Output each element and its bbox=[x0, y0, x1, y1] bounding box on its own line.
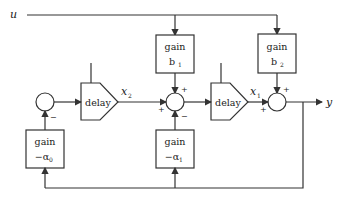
delay-block-2: delay bbox=[211, 63, 248, 120]
input-label: u bbox=[10, 8, 17, 21]
sign-mid-bottom: − bbox=[181, 112, 188, 121]
sign-right-left: + bbox=[260, 105, 267, 114]
svg-text:gain: gain bbox=[165, 136, 186, 147]
svg-text:−α: −α bbox=[35, 151, 50, 162]
svg-text:2: 2 bbox=[280, 61, 284, 68]
sign-mid-left: + bbox=[158, 105, 165, 114]
svg-text:−α: −α bbox=[165, 151, 180, 162]
svg-text:1: 1 bbox=[178, 61, 182, 68]
svg-text:gain: gain bbox=[35, 136, 56, 147]
svg-text:1: 1 bbox=[179, 156, 183, 163]
svg-text:delay: delay bbox=[215, 97, 241, 108]
gain-b2-block: gain b 2 bbox=[258, 34, 296, 73]
block-diagram: u gain b 1 gain b 2 delay delay y x bbox=[0, 0, 346, 200]
gain-b1-block: gain b 1 bbox=[156, 35, 194, 73]
state-x2-label: x 2 bbox=[121, 85, 132, 99]
output-label: y bbox=[325, 96, 333, 109]
sign-left-bottom: − bbox=[50, 113, 57, 122]
gain-a1-block: gain −α 1 bbox=[156, 130, 194, 168]
sum-junction-right bbox=[268, 93, 286, 111]
sign-mid-top: + bbox=[181, 85, 188, 94]
sign-right-top: + bbox=[283, 85, 290, 94]
svg-text:x: x bbox=[250, 85, 257, 98]
delay-block-1: delay bbox=[81, 63, 118, 120]
svg-text:1: 1 bbox=[257, 92, 261, 99]
svg-text:gain: gain bbox=[267, 41, 288, 52]
sum-junction-left bbox=[36, 93, 54, 111]
svg-text:2: 2 bbox=[128, 92, 132, 99]
svg-text:0: 0 bbox=[49, 156, 53, 163]
state-x1-label: x 1 bbox=[250, 85, 261, 99]
gain-a0-block: gain −α 0 bbox=[26, 130, 64, 168]
svg-text:x: x bbox=[121, 85, 128, 98]
svg-text:b: b bbox=[271, 56, 277, 67]
svg-text:b: b bbox=[169, 56, 175, 67]
svg-text:delay: delay bbox=[85, 97, 111, 108]
svg-text:gain: gain bbox=[165, 41, 186, 52]
sum-junction-mid bbox=[166, 93, 184, 111]
